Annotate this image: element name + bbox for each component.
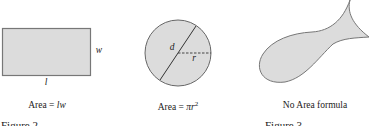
caption-formula: lw <box>57 100 66 110</box>
irregular-shape <box>259 0 369 82</box>
caption-prefix: Area = <box>158 102 187 112</box>
irregular-caption: No Area formula <box>283 100 347 110</box>
figure-3-caption: Figure 3 <box>265 119 302 126</box>
rectangle-width-label: w <box>96 45 102 55</box>
circle-area-caption: Area = πr2 <box>158 100 199 112</box>
caption-exponent: 2 <box>195 100 199 108</box>
rectangle-length-label: l <box>45 77 48 87</box>
caption-formula: πr <box>186 102 194 112</box>
circle-diameter-label: d <box>170 42 175 52</box>
rectangle-area-caption: Area = lw <box>28 100 66 110</box>
figure-2-caption: Figure 2 <box>1 119 38 126</box>
circle-radius-label: r <box>192 53 196 63</box>
rectangle-shape <box>3 29 91 76</box>
caption-prefix: Area = <box>28 100 57 110</box>
